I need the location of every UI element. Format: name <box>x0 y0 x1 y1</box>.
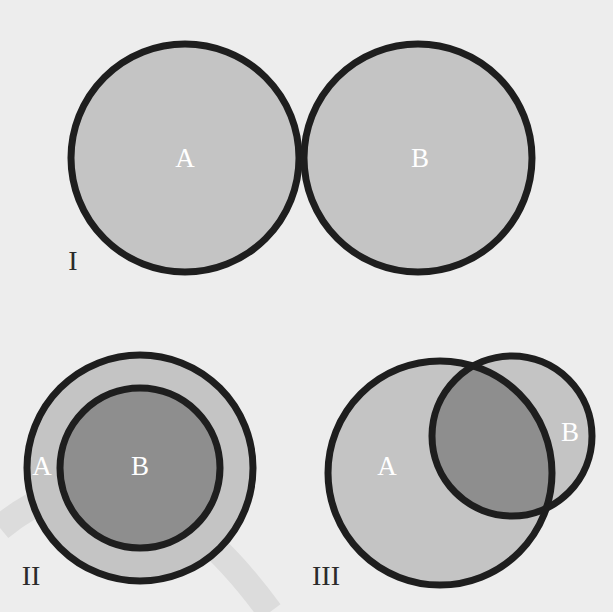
panel-3-overlap: A B III <box>312 356 592 591</box>
set-a-label: A <box>32 451 52 481</box>
panel-numeral: III <box>312 560 340 591</box>
set-b-label: B <box>411 143 429 173</box>
set-a-label: A <box>175 143 195 173</box>
set-a-label: A <box>377 451 397 481</box>
panel-numeral: I <box>68 245 77 276</box>
set-b-label: B <box>131 451 149 481</box>
panel-numeral: II <box>22 560 41 591</box>
panel-1-disjoint: A B I <box>68 44 532 276</box>
venn-diagrams: A B I A B II A B III <box>0 0 613 612</box>
set-b-label: B <box>561 417 579 447</box>
